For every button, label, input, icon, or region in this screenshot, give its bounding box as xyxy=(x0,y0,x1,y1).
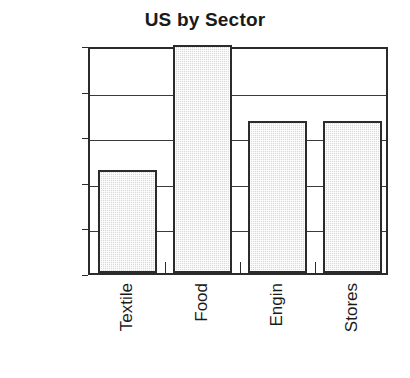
x-tick-mark xyxy=(165,262,166,273)
bar-stores[interactable] xyxy=(323,121,382,273)
x-tick-label: Stores xyxy=(342,283,359,332)
x-tick-mark xyxy=(315,262,316,273)
x-tick-label: Textile xyxy=(117,283,134,331)
bar-engin[interactable] xyxy=(248,121,307,273)
x-tick-label-slot: Textile xyxy=(88,275,163,378)
bar-food[interactable] xyxy=(173,45,232,273)
x-axis: TextileFoodEnginStores xyxy=(88,275,388,378)
x-tick-label: Food xyxy=(192,283,209,322)
x-tick-label-slot: Stores xyxy=(313,275,388,378)
bars-layer xyxy=(90,49,386,273)
x-tick-mark xyxy=(240,262,241,273)
y-axis: 0.0%5.0%10.0%15.0%20.0%25.0% xyxy=(0,0,86,378)
x-tick-label-slot: Engin xyxy=(238,275,313,378)
x-tick-label-slot: Food xyxy=(163,275,238,378)
bar-textile[interactable] xyxy=(98,170,157,273)
plot-area xyxy=(88,47,388,275)
x-tick-label: Engin xyxy=(267,283,284,326)
bar-chart-figure: US by Sector 0.0%5.0%10.0%15.0%20.0%25.0… xyxy=(0,0,410,378)
